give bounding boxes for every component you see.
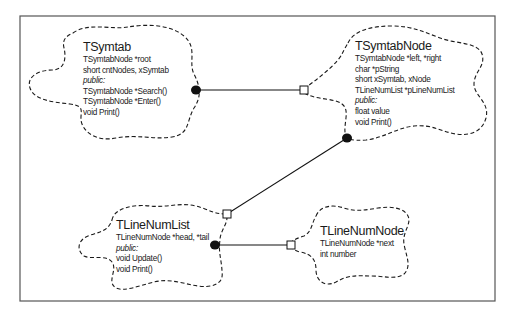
class-tsymtabnode: TSymtabNode TSymtabNode *left, *right ch… xyxy=(355,39,455,128)
class-name: TLineNumNode xyxy=(320,224,404,238)
visibility-label: public: xyxy=(83,76,169,87)
class-member: TSymtabNode *Enter() xyxy=(83,97,169,108)
hollow-square-icon xyxy=(300,86,308,94)
class-member: short cntNodes, xSymtab xyxy=(83,66,169,77)
class-tlinenumnode: TLineNumNode TLineNumNode *next int numb… xyxy=(320,224,404,260)
filled-circle-icon xyxy=(191,86,201,95)
filled-circle-icon xyxy=(342,134,352,143)
class-tlinenumlist: TLineNumList TLineNumNode *head, *tail p… xyxy=(116,218,209,275)
class-member: TSymtabNode *left, *right xyxy=(355,54,455,65)
visibility-label: public: xyxy=(355,96,455,107)
class-member: void Print() xyxy=(83,108,169,119)
class-member: TSymtabNode *root xyxy=(83,55,169,66)
class-member: void Print() xyxy=(355,118,455,129)
class-name: TSymtabNode xyxy=(355,39,455,53)
hollow-square-icon xyxy=(223,210,231,218)
class-member: short xSymtab, xNode xyxy=(355,75,455,86)
class-member: TLineNumNode *next xyxy=(320,239,404,250)
class-member: char *pString xyxy=(355,65,455,76)
class-member: TLineNumList *pLineNumList xyxy=(355,86,455,97)
filled-circle-icon xyxy=(210,241,220,250)
class-member: int number xyxy=(320,250,404,261)
class-name: TSymtab xyxy=(83,40,169,54)
class-name: TLineNumList xyxy=(116,218,209,232)
class-member: TLineNumNode *head, *tail xyxy=(116,233,209,244)
hollow-square-icon xyxy=(287,241,295,249)
class-member: TSymtabNode *Search() xyxy=(83,87,169,98)
class-member: float value xyxy=(355,107,455,118)
class-member: void Print() xyxy=(116,265,209,276)
class-tsymtab: TSymtab TSymtabNode *root short cntNodes… xyxy=(83,40,169,119)
visibility-label: public: xyxy=(116,244,209,255)
class-member: void Update() xyxy=(116,254,209,265)
